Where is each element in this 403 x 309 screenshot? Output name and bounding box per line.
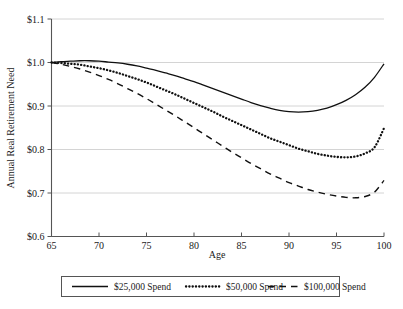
x-tick-label: 100 <box>377 240 392 251</box>
legend-label-1: $25,000 Spend <box>114 282 171 292</box>
x-tick-label: 80 <box>189 240 199 251</box>
y-tick-label: $1.0 <box>27 57 45 68</box>
chart-canvas: $0.6$0.7$0.8$0.9$1.0$1.1 657075808590951… <box>0 0 403 309</box>
chart-legend: $25,000 Spend$50,000 Spend$100,000 Spend <box>62 277 367 297</box>
y-tick-label: $0.7 <box>27 188 45 199</box>
series-lines <box>52 61 385 198</box>
y-axis-title: Annual Real Retirement Need <box>5 68 16 189</box>
y-tick-label: $0.6 <box>27 231 45 242</box>
x-tick-label: 90 <box>284 240 294 251</box>
gridlines <box>52 19 385 237</box>
y-tick-label: $0.9 <box>27 101 45 112</box>
x-tick-label: 75 <box>142 240 152 251</box>
legend-label-3: $100,000 Spend <box>304 282 366 292</box>
x-tick-label: 95 <box>332 240 342 251</box>
x-axis-ticks <box>52 233 385 237</box>
x-tick-label: 65 <box>47 240 57 251</box>
chart-figure: $0.6$0.7$0.8$0.9$1.0$1.1 657075808590951… <box>0 0 403 309</box>
y-tick-label: $1.1 <box>27 14 45 25</box>
series-line-3 <box>52 63 385 198</box>
x-tick-label: 70 <box>94 240 104 251</box>
y-tick-label: $0.8 <box>27 144 45 155</box>
legend-label-2: $50,000 Spend <box>226 282 283 292</box>
y-axis-tick-labels: $0.6$0.7$0.8$0.9$1.0$1.1 <box>27 14 45 243</box>
x-axis-title: Age <box>209 249 226 260</box>
x-tick-label: 85 <box>237 240 247 251</box>
y-axis-ticks <box>48 19 52 237</box>
